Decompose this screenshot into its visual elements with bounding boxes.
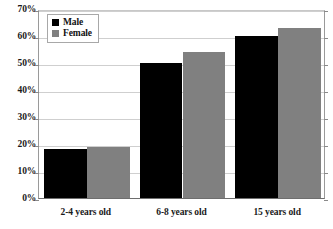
legend-item: Male [52,18,92,28]
x-axis: 2-4 years old6-8 years old15 years old [38,203,325,225]
bar-female [278,28,321,198]
x-axis-category-label: 6-8 years old [134,207,230,217]
y-axis: 0%10%20%30%40%50%60%70% [0,0,36,229]
y-axis-tick-label: 70% [2,5,36,15]
chart-legend: MaleFemale [47,14,99,43]
y-axis-tick-label: 10% [2,167,36,177]
y-axis-tick-label: 20% [2,140,36,150]
x-axis-category-label: 15 years old [229,207,325,217]
y-axis-tick-right [324,92,328,93]
y-axis-tick-right [324,38,328,39]
legend-item: Female [52,29,92,39]
bar-male [44,149,87,198]
plot-area: MaleFemale [38,10,325,199]
legend-label: Female [63,29,92,39]
bar-male [140,63,183,198]
y-axis-tick-right [324,173,328,174]
y-axis-tick-right [324,119,328,120]
y-axis-tick-label: 60% [2,32,36,42]
y-axis-tick-label: 40% [2,86,36,96]
y-axis-tick-label: 30% [2,113,36,123]
y-axis-tick-label: 50% [2,59,36,69]
bar-chart: 0%10%20%30%40%50%60%70% MaleFemale 2-4 y… [0,0,333,229]
bar-female [87,147,130,198]
y-axis-tick-right [324,11,328,12]
legend-swatch-icon [52,19,59,26]
bar-female [183,52,226,198]
y-axis-tick-right [324,146,328,147]
y-axis-tick [35,200,39,201]
bar-male [235,36,278,198]
y-axis-tick-right [324,200,328,201]
y-axis-tick-right [324,65,328,66]
legend-label: Male [63,18,83,28]
y-axis-tick-label: 0% [2,194,36,204]
legend-swatch-icon [52,30,59,37]
x-axis-category-label: 2-4 years old [38,207,134,217]
